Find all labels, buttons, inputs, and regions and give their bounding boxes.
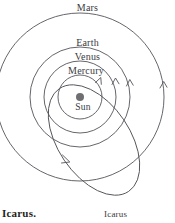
orbit-mercury-direction-arrow-icon <box>96 78 102 85</box>
figure-caption: Icarus. <box>2 207 36 219</box>
sun-body-icon <box>76 93 84 101</box>
orbit-icarus <box>29 68 158 211</box>
sun-label: Sun <box>0 102 166 113</box>
icarus-orbit-group <box>29 68 158 211</box>
orbit-label-earth: Earth <box>0 37 175 48</box>
orbit-label-mercury: Mercury <box>0 65 172 76</box>
orbit-label-icarus: Icarus <box>104 209 127 219</box>
orbit-diagram: Mars Earth Venus Mercury Sun Icarus Icar… <box>0 0 175 223</box>
orbit-label-venus: Venus <box>0 51 175 62</box>
orbit-label-mars: Mars <box>0 2 175 13</box>
